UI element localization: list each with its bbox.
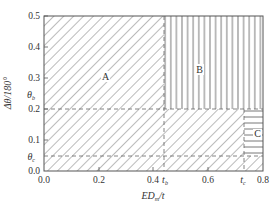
y-tick-0.2: 0.2	[28, 104, 40, 114]
x-tick-0.4: 0.4	[147, 175, 159, 185]
y-tick-theta-c: θc	[27, 151, 35, 163]
x-tick-t-c: tc	[240, 174, 246, 186]
x-tick-0.6: 0.6	[202, 175, 214, 185]
y-tick-0.3: 0.3	[28, 73, 40, 83]
y-tick-0.1: 0.1	[28, 135, 40, 145]
region-chart: 0.5 0.4 0.3 0.2 0.1 0.0 θb θc 0.0 0.2 0.…	[0, 0, 279, 208]
y-tick-0.5: 0.5	[28, 11, 40, 21]
x-tick-0.0: 0.0	[38, 175, 50, 185]
y-axis-label: Δθ/180°	[2, 77, 13, 111]
region-a-label: A	[102, 71, 110, 82]
x-tick-0.8: 0.8	[257, 175, 269, 185]
x-tick-0.2: 0.2	[93, 175, 105, 185]
y-tick-theta-b: θb	[27, 89, 35, 101]
region-c-label: C	[254, 128, 261, 139]
x-tick-t-b: tb	[162, 174, 168, 186]
region-b-label: B	[196, 64, 203, 75]
x-axis-label: EDm/t	[140, 190, 164, 202]
region-b-fill	[164, 16, 263, 109]
y-tick-0.4: 0.4	[28, 42, 40, 52]
